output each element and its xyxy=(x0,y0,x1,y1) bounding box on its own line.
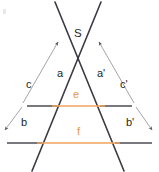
measure-label-b: b xyxy=(21,117,27,128)
measure-arrow-b xyxy=(5,107,22,130)
vertex-label-s: S xyxy=(74,28,82,39)
ray-right xyxy=(32,2,101,171)
geometry-figure: S a a' c c' b b' e f xyxy=(0,0,159,172)
figure-canvas xyxy=(0,0,159,172)
transversal-label-f: f xyxy=(77,126,80,137)
measure-label-c: c xyxy=(26,79,32,90)
transversal-label-e: e xyxy=(73,89,79,100)
measure-arrow-b-prime xyxy=(136,107,152,130)
measure-label-c-prime: c' xyxy=(120,79,128,90)
measure-label-b-prime: b' xyxy=(126,117,134,128)
segment-label-a-prime: a' xyxy=(97,68,105,79)
measure-arrow-c xyxy=(23,42,58,103)
ray-left xyxy=(55,2,124,171)
segment-label-a: a xyxy=(57,68,63,79)
